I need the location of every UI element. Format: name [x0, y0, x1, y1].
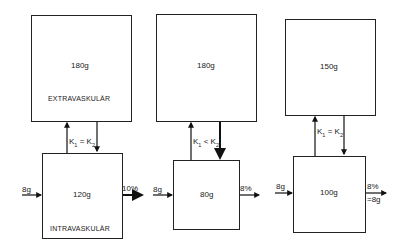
extravascular-amount-3: 150g	[320, 63, 338, 71]
intravascular-amount-3: 100g	[320, 189, 338, 197]
input-dose-1: 8g	[22, 186, 31, 194]
extravascular-label: EXTRAVASKULÄR	[48, 95, 110, 102]
intravascular-label: INTRAVASKULÄR	[50, 225, 110, 232]
output-rate-3: 8%	[367, 183, 379, 191]
intravascular-amount-2: 80g	[200, 191, 213, 199]
extravascular-amount-2: 180g	[197, 62, 215, 70]
input-dose-3: 8g	[276, 183, 285, 191]
output-note-3: =8g	[367, 196, 381, 204]
input-dose-2: 8g	[153, 186, 162, 194]
intravascular-amount-1: 120g	[73, 191, 91, 199]
rate-constants-2: K1 < K2	[193, 138, 219, 148]
extravascular-amount-1: 180g	[71, 62, 89, 70]
rate-constants-3: K1 = K2	[317, 128, 343, 138]
output-rate-1: 10%	[122, 185, 138, 193]
rate-constants-1: K1 = K2	[69, 138, 95, 148]
output-rate-2: 8%	[240, 185, 252, 193]
